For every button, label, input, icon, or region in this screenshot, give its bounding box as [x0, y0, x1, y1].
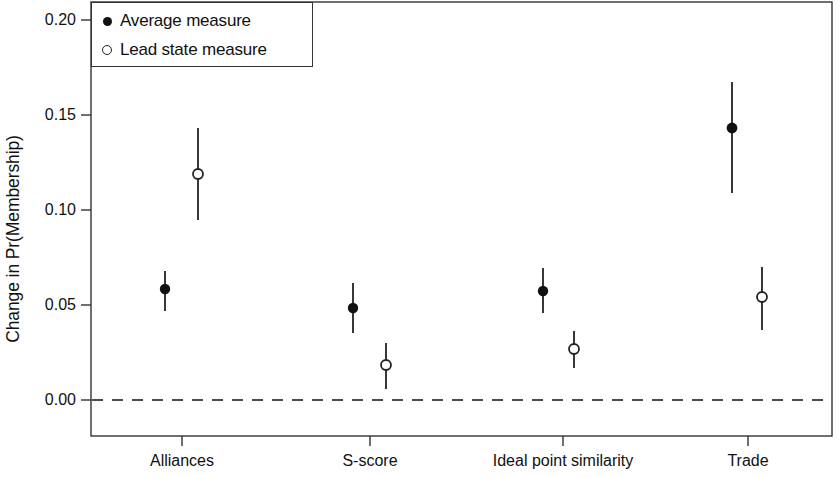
legend-label-lead-state-measure: Lead state measure [120, 40, 267, 60]
data-point-ideal-point-similarity-average [538, 268, 548, 313]
open-circle-marker [569, 344, 579, 354]
legend-open-circle-icon [94, 45, 120, 55]
data-point-trade-lead-state [757, 267, 767, 330]
filled-circle-marker [160, 284, 170, 294]
filled-circle-marker [348, 303, 358, 313]
data-point-ideal-point-similarity-lead-state [569, 331, 579, 368]
legend-entry-lead-state-measure: Lead state measure [94, 36, 312, 64]
legend: Average measure Lead state measure [91, 2, 313, 67]
open-circle-marker [193, 169, 203, 179]
data-point-trade-average [727, 82, 738, 193]
data-point-s-score-lead-state [381, 343, 391, 389]
filled-circle-marker [727, 123, 738, 134]
data-point-alliances-average [160, 271, 170, 311]
open-circle-marker [381, 360, 391, 370]
data-point-s-score-average [348, 283, 358, 333]
filled-circle-marker [538, 286, 548, 296]
open-circle-marker [757, 292, 767, 302]
legend-filled-circle-icon [94, 17, 120, 26]
legend-label-average-measure: Average measure [120, 11, 251, 31]
figure-container: Change in Pr(Membership) 0.20 0.15 0.10 … [0, 0, 839, 478]
plot-svg [0, 0, 839, 478]
plot-frame [91, 2, 832, 436]
legend-entry-average-measure: Average measure [94, 7, 312, 35]
data-point-alliances-lead-state [193, 128, 203, 220]
